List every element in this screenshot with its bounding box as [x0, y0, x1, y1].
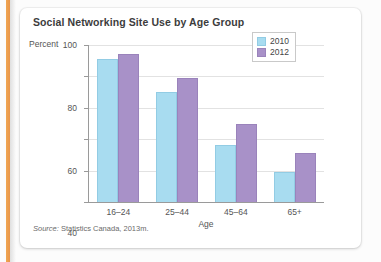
y-tick-mark: 40: [84, 139, 88, 140]
plot-area: 020406080100 16–2425–4445–6465+: [88, 45, 324, 203]
y-tick-mark: 80: [84, 76, 88, 77]
y-tick-label: 100: [63, 40, 77, 50]
x-tick-label: 16–24: [107, 207, 131, 217]
y-tick-label: 80: [68, 103, 77, 113]
bar-2012-65+[interactable]: [295, 153, 316, 202]
legend-swatch-2012: [257, 48, 266, 57]
bar-2010-16-24[interactable]: [97, 59, 118, 202]
x-tick-label: 25–44: [165, 207, 189, 217]
bar-group: 25–44: [148, 45, 207, 202]
bar-2012-25-44[interactable]: [177, 78, 198, 202]
chart-legend: 20102012: [252, 32, 296, 62]
x-axis-line: [88, 202, 324, 203]
bar-group: 45–64: [207, 45, 266, 202]
y-tick-mark: 0: [84, 202, 88, 203]
chart-title: Social Networking Site Use by Age Group: [33, 16, 244, 28]
bar-groups: 16–2425–4445–6465+: [89, 45, 324, 202]
y-tick-label: 60: [68, 166, 77, 176]
figure-card: Social Networking Site Use by Age Group …: [20, 8, 361, 248]
bar-2012-16-24[interactable]: [118, 54, 139, 202]
legend-item-2012[interactable]: 2012: [257, 47, 289, 58]
y-axis-title: Percent: [29, 39, 58, 49]
legend-swatch-2010: [257, 37, 266, 46]
bar-2012-45-64[interactable]: [236, 124, 257, 203]
legend-label-2012: 2012: [270, 48, 289, 57]
legend-label-2010: 2010: [270, 37, 289, 46]
y-tick-mark: 20: [84, 171, 88, 172]
book-edge-shadow: [10, 0, 16, 262]
bar-group: 16–24: [89, 45, 148, 202]
bar-2010-45-64[interactable]: [215, 145, 236, 202]
bar-group: 65+: [265, 45, 324, 202]
bar-2010-65+[interactable]: [274, 172, 295, 202]
source-note: Source: Statistics Canada, 2013m.: [33, 224, 149, 233]
source-text: Statistics Canada, 2013m.: [59, 224, 149, 233]
y-tick-mark: 100: [84, 45, 88, 46]
x-tick-label: 65+: [287, 207, 301, 217]
y-tick-mark: 60: [84, 108, 88, 109]
x-tick-label: 45–64: [224, 207, 248, 217]
legend-item-2010[interactable]: 2010: [257, 36, 289, 47]
bar-2010-25-44[interactable]: [156, 92, 177, 202]
source-prefix: Source:: [33, 224, 59, 233]
